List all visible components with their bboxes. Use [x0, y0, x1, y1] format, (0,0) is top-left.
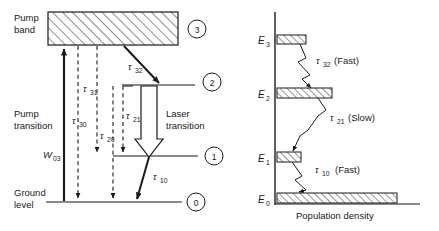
energy-label-E0: E 0: [258, 194, 270, 207]
level-badge-2-label: 2: [210, 78, 215, 88]
level-badge-1-label: 1: [212, 152, 217, 162]
E2-subscript: 2: [266, 95, 270, 102]
right-tau32-label: τ 32 (Fast): [316, 55, 359, 68]
laser-transition-label-line1: Laser: [166, 108, 190, 119]
E0-symbol: E: [258, 194, 265, 205]
right-tau21-subscript: 21: [337, 118, 345, 125]
right-tau10-arrow: [292, 162, 306, 192]
right-tau10-subscript: 10: [322, 170, 330, 177]
tau10-label: τ 10: [153, 171, 168, 184]
level-badge-0: 0: [187, 193, 205, 211]
tau20-symbol: τ: [100, 130, 105, 141]
pump-rate-symbol: W: [43, 149, 53, 160]
tau30-subscript: 30: [79, 121, 87, 128]
level-badge-3-label: 3: [195, 25, 200, 35]
E3-symbol: E: [258, 35, 265, 46]
right-tau21-label: τ 21 (Slow): [330, 112, 375, 125]
right-tau32-symbol: τ: [316, 55, 321, 66]
pump-rate-label: W 03: [43, 149, 61, 162]
pump-band-rect: [48, 12, 178, 45]
tau21-subscript: 21: [133, 116, 141, 123]
pump-transition-label-line2: transition: [14, 120, 53, 131]
E1-symbol: E: [258, 153, 265, 164]
right-tau10-label: τ 10 (Fast): [315, 164, 360, 177]
E0-subscript: 0: [266, 200, 270, 207]
ground-level-label-line2: level: [14, 199, 34, 210]
laser-energy-level-figure: 3 2 1 0 Pump band Pump transition Laser …: [0, 0, 439, 231]
tau31-symbol: τ: [83, 83, 88, 94]
tau31-subscript: 31: [90, 89, 98, 96]
pump-band-label-line2: band: [14, 24, 35, 35]
tau30-label: τ 30: [72, 115, 87, 128]
pump-transition-label-line1: Pump: [14, 108, 39, 119]
right-tau10-symbol: τ: [315, 164, 320, 175]
energy-label-E2: E 2: [258, 89, 270, 102]
tau21-label: τ 21: [126, 110, 141, 123]
ground-level-label-line1: Ground: [14, 187, 46, 198]
right-tau21-symbol: τ: [330, 112, 335, 123]
right-tau32-arrow: [298, 44, 311, 88]
energy-label-E1: E 1: [258, 153, 270, 166]
level-badge-2: 2: [203, 73, 221, 91]
right-tau10-speed: (Fast): [335, 164, 360, 175]
population-bar-E3: [277, 35, 306, 44]
tau10-subscript: 10: [160, 177, 168, 184]
E1-subscript: 1: [266, 159, 270, 166]
tau32-subscript: 32: [135, 67, 143, 74]
right-tau32-subscript: 32: [323, 61, 331, 68]
tau10-arrow: [137, 157, 149, 199]
level-badge-0-label: 0: [194, 198, 199, 208]
level-badge-1: 1: [205, 147, 223, 165]
right-tau21-speed: (Slow): [348, 112, 375, 123]
E3-subscript: 3: [266, 41, 270, 48]
tau10-symbol: τ: [153, 171, 158, 182]
energy-label-E3: E 3: [258, 35, 270, 48]
pump-rate-subscript: 03: [53, 155, 61, 162]
population-bar-E0: [277, 193, 397, 203]
tau30-symbol: τ: [72, 115, 77, 126]
figure-canvas: 3 2 1 0 Pump band Pump transition Laser …: [0, 0, 439, 231]
population-bar-E2: [277, 88, 332, 98]
tau31-label: τ 31: [83, 83, 98, 96]
tau21-symbol: τ: [126, 110, 131, 121]
tau32-symbol: τ: [128, 61, 133, 72]
pump-band-label-line1: Pump: [14, 12, 39, 23]
tau20-subscript: 20: [107, 136, 115, 143]
population-bar-E1: [277, 152, 301, 162]
laser-transition-label-line2: transition: [166, 120, 205, 131]
right-tau21-arrow: [293, 98, 326, 151]
right-tau32-speed: (Fast): [334, 55, 359, 66]
population-density-axis-label: Population density: [296, 210, 374, 221]
E2-symbol: E: [258, 89, 265, 100]
level-badge-3: 3: [188, 20, 206, 38]
